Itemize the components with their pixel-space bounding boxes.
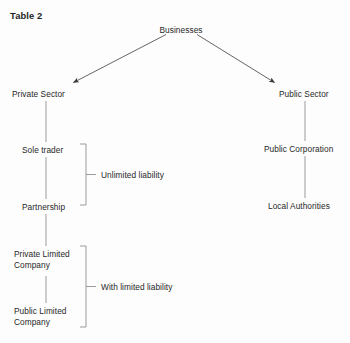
sole-trader-node: Sole trader [22, 145, 63, 156]
partnership-node: Partnership [22, 202, 65, 213]
edge-businesses-public-sector [197, 35, 275, 83]
edge-businesses-private-sector [74, 35, 167, 83]
local-authorities-node: Local Authorities [268, 201, 330, 212]
businesses-node: Businesses [159, 25, 202, 36]
private-sector-node: Private Sector [12, 89, 65, 100]
private-limited-company-node: Private Limited Company [14, 249, 70, 270]
bracket-unlimited-liability [80, 144, 86, 205]
bracket-with-limited-liability [80, 246, 86, 327]
with-limited-liability-label: With limited liability [101, 282, 172, 292]
public-sector-node: Public Sector [279, 89, 329, 100]
public-corporation-node: Public Corporation [264, 144, 333, 155]
unlimited-liability-label: Unlimited liability [101, 170, 164, 180]
diagram-page: Table 2 Businesses Private Sector Sole t… [0, 0, 350, 343]
public-limited-company-node: Public Limited Company [14, 306, 67, 327]
diagram-canvas [0, 0, 350, 343]
